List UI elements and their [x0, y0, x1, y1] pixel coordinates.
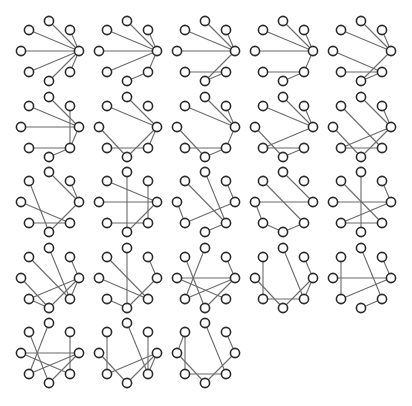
graph-node [180, 67, 189, 76]
graph-node [122, 92, 131, 101]
graph-node [143, 294, 152, 303]
graph-node [299, 67, 308, 76]
graph-node [143, 218, 152, 227]
graph-edge [205, 51, 235, 81]
graph-edge [361, 21, 391, 51]
graph-edge [361, 97, 391, 127]
graph-node [258, 25, 267, 34]
graph-node [94, 348, 103, 357]
graph-node [152, 348, 161, 357]
graph-node [180, 143, 189, 152]
graph-node [278, 227, 287, 236]
graph-node [94, 197, 103, 206]
graph-node [24, 176, 33, 185]
graph-node [94, 273, 103, 282]
graph-node [65, 218, 74, 227]
graph-node [24, 101, 33, 110]
graph-node [221, 252, 230, 261]
graph-node [299, 176, 308, 185]
graph-node [143, 101, 152, 110]
graph-node [74, 348, 83, 357]
graph-edge [205, 353, 235, 383]
graph-panel [172, 92, 239, 161]
graph-node [356, 167, 365, 176]
graph-node [65, 252, 74, 261]
graph-edge [127, 127, 157, 157]
graph-node [16, 122, 25, 131]
graph-node [336, 294, 345, 303]
graph-node [356, 92, 365, 101]
graph-node [44, 92, 53, 101]
graph-node [65, 176, 74, 185]
graph-node [24, 327, 33, 336]
graph-node [143, 252, 152, 261]
graph-node [200, 378, 209, 387]
graph-node [200, 152, 209, 161]
graph-edge [255, 278, 283, 308]
graph-node [258, 143, 267, 152]
graph-node [44, 76, 53, 85]
graph-node [65, 327, 74, 336]
graph-edge [283, 21, 313, 51]
graph-node [180, 294, 189, 303]
graph-node [258, 218, 267, 227]
graph-node [336, 101, 345, 110]
graph-node [377, 67, 386, 76]
graph-node [278, 167, 287, 176]
graph-node [328, 197, 337, 206]
graph-node [200, 318, 209, 327]
graph-node [102, 327, 111, 336]
graph-node [221, 176, 230, 185]
graph-node [278, 243, 287, 252]
graph-node [24, 369, 33, 378]
graph-node [377, 294, 386, 303]
graph-node [299, 252, 308, 261]
graph-node [102, 143, 111, 152]
graph-node [377, 252, 386, 261]
graph-edge [49, 51, 79, 81]
graph-node [299, 143, 308, 152]
graph-node [336, 218, 345, 227]
graph-node [386, 197, 395, 206]
graph-edge [333, 127, 361, 157]
graph-edge [49, 172, 79, 202]
graph-node [74, 122, 83, 131]
graph-node [356, 76, 365, 85]
graph-node [200, 92, 209, 101]
graph-node [24, 143, 33, 152]
graph-node [250, 197, 259, 206]
graph-node [377, 176, 386, 185]
graph-node [16, 46, 25, 55]
graph-node [143, 369, 152, 378]
graph-node [230, 348, 239, 357]
graph-node [356, 243, 365, 252]
graph-node [200, 167, 209, 176]
graph-edge [127, 353, 157, 383]
graph-panel [250, 16, 317, 85]
graph-node [180, 218, 189, 227]
graph-node [65, 294, 74, 303]
graph-node [143, 327, 152, 336]
graph-edge [361, 51, 391, 81]
graph-node [278, 152, 287, 161]
graph-node [299, 294, 308, 303]
graph-panel [94, 16, 161, 85]
graph-panel [94, 243, 161, 312]
graph-node [250, 122, 259, 131]
graph-grid-diagram [0, 0, 412, 406]
graph-panel [16, 92, 83, 161]
graph-node [356, 303, 365, 312]
graph-node [74, 273, 83, 282]
graph-node [152, 197, 161, 206]
graph-node [180, 25, 189, 34]
graph-node [221, 294, 230, 303]
graph-node [102, 25, 111, 34]
graph-node [180, 369, 189, 378]
graph-node [328, 46, 337, 55]
graph-node [230, 273, 239, 282]
graph-panel [328, 92, 395, 161]
graph-node [143, 67, 152, 76]
graph-panel [16, 16, 83, 85]
graph-node [122, 243, 131, 252]
graph-node [44, 167, 53, 176]
